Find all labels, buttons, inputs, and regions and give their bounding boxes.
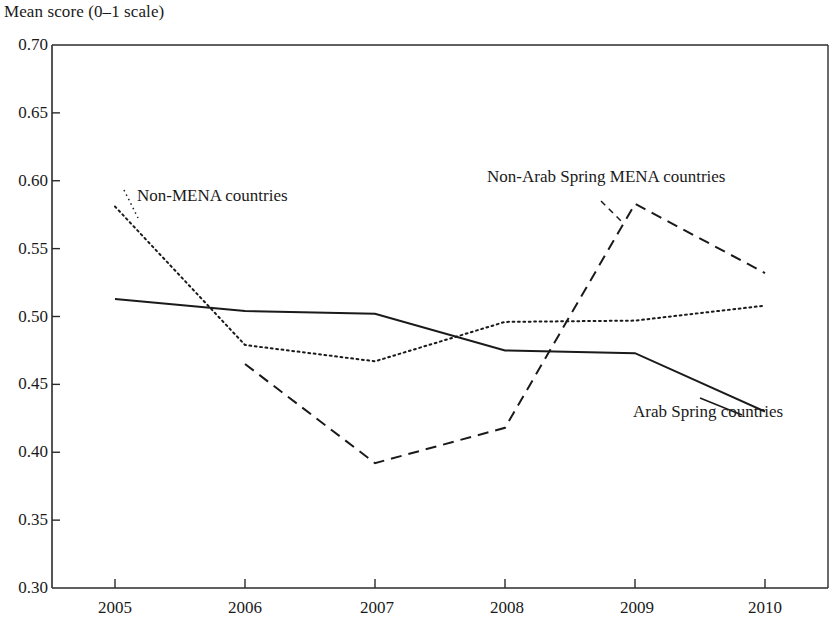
- series-line-1: [245, 204, 765, 463]
- data-series: [115, 204, 765, 463]
- axis-lines: [52, 45, 828, 588]
- line-chart: Mean score (0–1 scale) 0.70 0.65 0.60 0.…: [0, 0, 836, 625]
- series-label-non-mena: Non-MENA countries: [137, 186, 288, 206]
- series-label-non-arab-spring-mena: Non-Arab Spring MENA countries: [487, 167, 725, 187]
- series-line-0: [115, 207, 765, 362]
- series-line-2: [115, 299, 765, 412]
- series-label-arab-spring: Arab Spring countries: [633, 402, 783, 422]
- plot-area: [0, 0, 836, 625]
- annotation-leader-lines: [124, 190, 742, 415]
